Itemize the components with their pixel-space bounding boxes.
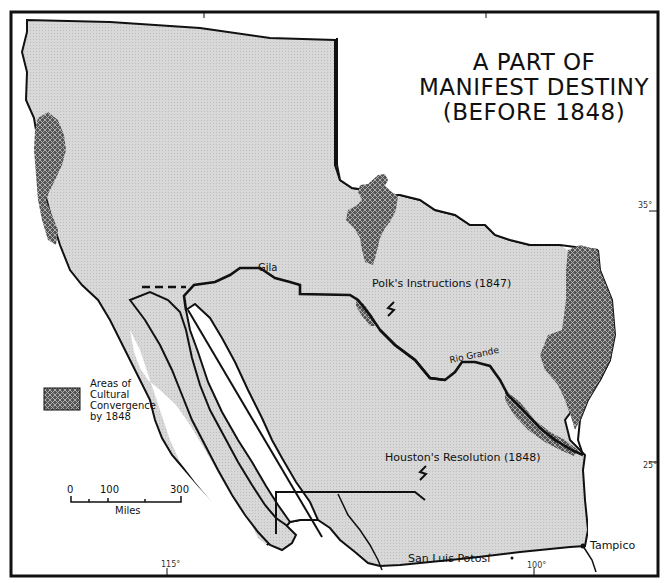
title-line-2: MANIFEST DESTINY [414,75,654,100]
legend-swatch [44,388,80,410]
scale-label-0: 0 [67,484,73,495]
lat-25-label: 25° [643,461,657,470]
tampico-marker [581,544,586,549]
title-line-3: (BEFORE 1848) [414,100,654,125]
legend-line-2: Cultural [90,389,156,400]
tampico-label: Tampico [590,539,635,552]
gila-label: Gila [258,262,277,273]
scale-label-100: 100 [100,484,119,495]
houstons-resolution-label: Houston's Resolution (1848) [385,451,541,464]
lon-100-label: 100° [527,561,546,570]
manifest-destiny-map: A PART OF MANIFEST DESTINY (BEFORE 1848)… [0,0,669,583]
scale-label-300: 300 [170,484,189,495]
lat-35-label: 35° [638,201,652,210]
polks-instructions-label: Polk's Instructions (1847) [372,277,511,290]
san-luis-potosi-marker [511,557,514,560]
scale-bar [71,496,181,502]
map-title: A PART OF MANIFEST DESTINY (BEFORE 1848) [414,50,654,125]
scale-unit-label: Miles [115,505,141,516]
legend-line-4: by 1848 [90,411,156,422]
legend: Areas of Cultural Convergence by 1848 [90,378,156,422]
title-line-1: A PART OF [414,50,654,75]
san-luis-potosi-label: San Luis Potosí [408,552,490,565]
legend-line-1: Areas of [90,378,156,389]
legend-line-3: Convergence [90,400,156,411]
lon-115-label: 115° [161,560,180,569]
